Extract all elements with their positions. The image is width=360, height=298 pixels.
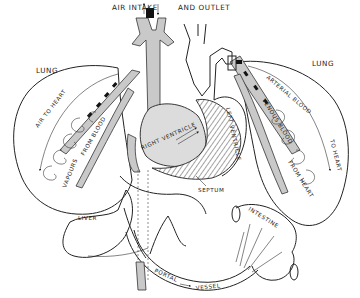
portal-vessel: PORTAL VESSEL <box>126 230 258 291</box>
liver: LIVER <box>63 190 186 258</box>
label-lung-right: LUNG <box>312 59 334 68</box>
left-lung: LUNG AIR TO HEART VAPOURS FROM BLOOD <box>14 66 140 215</box>
label-and-outlet: AND OUTLET <box>178 3 230 12</box>
right-lung: LUNG ARTERIAL BLOOD TO HEART VENOUS BLOO… <box>230 56 348 226</box>
label-lung-left: LUNG <box>36 66 58 75</box>
intestine-mesentery-vessels <box>236 224 282 272</box>
great-vessels <box>184 24 236 100</box>
label-from-heart: FROM HEART <box>287 159 315 198</box>
label-intestine: INTESTINE <box>247 206 279 229</box>
heart: RIGHT VENTRICLE LEFT VENTRICLE SEPTUM <box>140 97 246 193</box>
label-septum: SEPTUM <box>198 187 224 193</box>
label-air-to-heart: AIR TO HEART <box>34 88 67 128</box>
label-vapours: VAPOURS <box>61 158 78 189</box>
label-air-intake: AIR INTAKE <box>112 3 158 12</box>
circulation-diagram: LUNG AIR TO HEART VAPOURS FROM BLOOD LUN… <box>0 0 360 298</box>
label-liver: LIVER <box>78 215 97 221</box>
label-to-heart: TO HEART <box>329 138 343 172</box>
intestine: INTESTINE <box>232 204 298 280</box>
